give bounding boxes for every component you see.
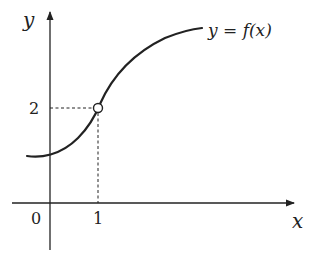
y-axis-label: y bbox=[22, 8, 35, 32]
open-point bbox=[94, 104, 103, 113]
x-axis-label: x bbox=[292, 209, 303, 233]
curve-f bbox=[27, 28, 202, 157]
y-tick-label: 2 bbox=[29, 99, 39, 118]
origin-label: 0 bbox=[31, 209, 41, 228]
x-tick-label: 1 bbox=[93, 209, 103, 228]
function-graph: y x 0 1 2 y = f(x) bbox=[0, 0, 314, 258]
curve-label: y = f(x) bbox=[207, 20, 272, 40]
